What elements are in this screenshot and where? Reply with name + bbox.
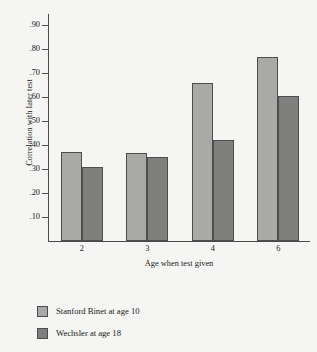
x-axis-tick-label: 4 [192,244,234,253]
x-axis-tick-label: 6 [257,244,299,253]
legend-label: Wechsler at age 18 [56,328,121,338]
bar [147,157,168,241]
x-axis-tick-label: 3 [126,244,168,253]
bar [213,140,234,241]
y-axis-tick-label: .90 [30,20,40,29]
bar-group: 3 [126,14,168,241]
legend-item[interactable]: Wechsler at age 18 [37,322,140,344]
y-axis-tick-label: .20 [30,188,40,197]
bar [82,167,103,241]
bar [61,152,82,241]
bar [278,96,299,241]
y-axis-tick: .10 [42,217,48,218]
y-axis-tick-label: .30 [30,164,40,173]
y-axis-tick: .20 [42,193,48,194]
legend-item[interactable]: Stanford Binet at age 10 [37,300,140,322]
y-axis-tick-label: .60 [30,92,40,101]
y-axis-tick-label: .50 [30,116,40,125]
y-axis-tick: .30 [42,169,48,170]
bars-layer: 2346 [49,14,310,241]
y-axis-tick: .40 [42,145,48,146]
y-axis-tick: .50 [42,121,48,122]
legend-label: Stanford Binet at age 10 [56,306,140,316]
y-axis-tick-label: .40 [30,140,40,149]
bar-chart-figure: Correlation with later test .10.20.30.40… [0,0,317,352]
y-axis-tick: .90 [42,25,48,26]
bar-group: 2 [61,14,103,241]
y-axis-tick-label: .80 [30,44,40,53]
y-axis-tick: .80 [42,49,48,50]
bar-group: 6 [257,14,299,241]
legend-swatch [37,306,48,317]
bar-group: 4 [192,14,234,241]
plot-area: .10.20.30.40.50.60.70.80.90 2346 [48,14,310,242]
y-axis-tick-label: .10 [30,212,40,221]
bar [126,153,147,241]
x-axis-tick-label: 2 [61,244,103,253]
y-axis-tick: .70 [42,73,48,74]
chart-legend: Stanford Binet at age 10Wechsler at age … [37,300,140,344]
x-axis-line [48,241,310,242]
bar [257,57,278,241]
y-axis-tick-label: .70 [30,68,40,77]
y-axis-tick: .60 [42,97,48,98]
bar [192,83,213,241]
legend-swatch [37,328,48,339]
x-axis-title: Age when test given [48,259,310,268]
